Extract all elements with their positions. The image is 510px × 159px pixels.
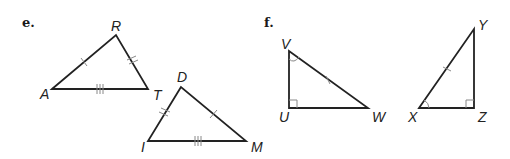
- vertex-w-label: W: [372, 109, 387, 125]
- triangle-congruence-diagram: e. A R T D I M f.: [0, 0, 510, 159]
- vertex-y-label: Y: [478, 17, 489, 33]
- vertex-x-label: X: [407, 109, 418, 125]
- triangle-vuw-shape: [289, 51, 368, 108]
- vertex-v-label: V: [281, 36, 292, 52]
- triangle-vuw: V U W: [279, 36, 387, 125]
- vertex-a-label: A: [39, 86, 49, 102]
- vertex-r-label: R: [111, 18, 121, 34]
- vertex-d-label: D: [177, 69, 187, 85]
- vertex-t-label: T: [153, 87, 163, 103]
- part-e-label: e.: [22, 15, 35, 30]
- part-f-label: f.: [264, 15, 274, 30]
- triangle-xyz: Y X Z: [407, 17, 489, 125]
- vertex-m-label: M: [251, 139, 263, 155]
- vertex-u-label: U: [279, 109, 290, 125]
- vertex-z-label: Z: [477, 109, 487, 125]
- vertex-i-label: I: [141, 139, 145, 155]
- triangle-art: A R T: [39, 18, 163, 103]
- triangle-dim: D I M: [141, 69, 263, 155]
- right-angle-z: [466, 100, 474, 108]
- right-angle-u: [289, 100, 297, 108]
